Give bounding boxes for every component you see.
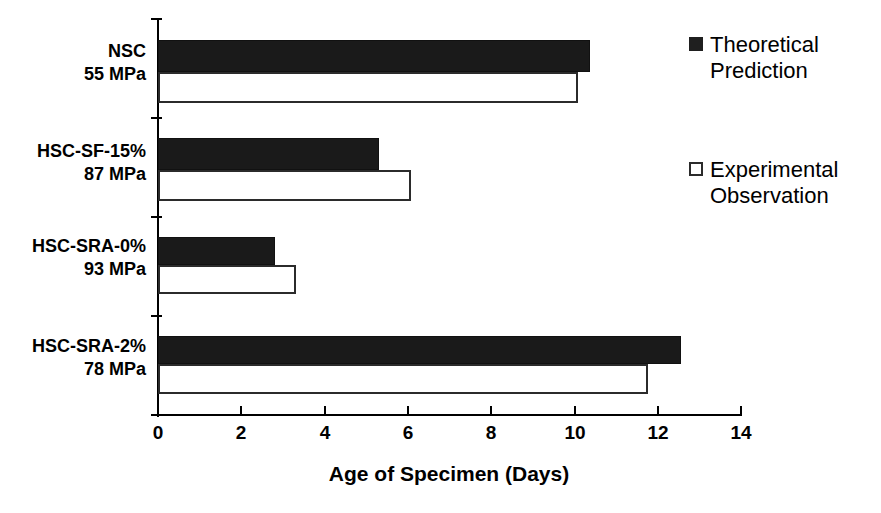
bar-experimental-hsc-sf-15: [158, 170, 411, 201]
legend-label-theoretical-prediction: Theoretical Prediction: [710, 32, 819, 84]
hollow-square-icon: [689, 162, 703, 176]
legend-entry-experimental-observation: Experimental Observation: [689, 157, 838, 209]
legend-label-line1: Experimental: [710, 157, 838, 182]
category-strength-hsc-sra-2: 78 MPa: [32, 358, 146, 381]
legend-label-line2: Observation: [710, 183, 838, 209]
x-tick-label-6: 6: [403, 422, 414, 444]
category-label-hsc-sra-2: HSC-SRA-2% 78 MPa: [32, 335, 146, 382]
legend-entry-theoretical-prediction: Theoretical Prediction: [689, 32, 819, 84]
category-label-nsc: NSC 55 MPa: [84, 40, 146, 87]
x-tick-8: [490, 406, 492, 416]
bar-theoretical-nsc: [158, 40, 590, 72]
x-tick-2: [240, 406, 242, 416]
x-axis-title: Age of Specimen (Days): [157, 462, 741, 486]
x-tick-label-4: 4: [320, 422, 331, 444]
x-tick-6: [407, 406, 409, 416]
bar-experimental-hsc-sra-0: [158, 265, 296, 294]
x-tick-14: [740, 406, 742, 416]
x-axis-spine: [157, 414, 741, 416]
category-strength-nsc: 55 MPa: [84, 63, 146, 86]
x-tick-label-14: 14: [730, 422, 751, 444]
y-axis-tick-3: [151, 315, 162, 317]
category-name-hsc-sra-2: HSC-SRA-2%: [32, 336, 146, 356]
category-name-hsc-sf-15: HSC-SF-15%: [37, 141, 146, 161]
x-tick-0: [157, 406, 159, 416]
x-tick-4: [324, 406, 326, 416]
bar-experimental-nsc: [158, 72, 578, 103]
y-axis-tick-2: [151, 216, 162, 218]
x-tick-label-8: 8: [486, 422, 497, 444]
x-tick-label-12: 12: [647, 422, 668, 444]
x-tick-label-0: 0: [153, 422, 164, 444]
bar-theoretical-hsc-sf-15: [158, 138, 379, 170]
legend-label-line1: Theoretical: [710, 32, 819, 57]
category-label-hsc-sra-0: HSC-SRA-0% 93 MPa: [32, 235, 146, 282]
category-strength-hsc-sra-0: 93 MPa: [32, 258, 146, 281]
legend-label-line2: Prediction: [710, 58, 819, 84]
filled-square-icon: [689, 37, 703, 51]
legend-label-experimental-observation: Experimental Observation: [710, 157, 838, 209]
x-tick-10: [574, 406, 576, 416]
y-axis-tick-top: [151, 18, 162, 20]
x-tick-label-10: 10: [564, 422, 585, 444]
category-label-hsc-sf-15: HSC-SF-15% 87 MPa: [37, 140, 146, 187]
category-name-nsc: NSC: [108, 41, 146, 61]
x-tick-12: [657, 406, 659, 416]
y-axis-tick-1: [151, 117, 162, 119]
bar-theoretical-hsc-sra-0: [158, 237, 275, 265]
bar-chart: 0 2 4 6 8 10 12 14 NSC 55 MPa HSC-SF-15%…: [0, 0, 881, 513]
bar-experimental-hsc-sra-2: [158, 364, 648, 394]
bar-theoretical-hsc-sra-2: [158, 336, 681, 364]
category-strength-hsc-sf-15: 87 MPa: [37, 163, 146, 186]
x-tick-label-2: 2: [236, 422, 247, 444]
category-name-hsc-sra-0: HSC-SRA-0%: [32, 236, 146, 256]
